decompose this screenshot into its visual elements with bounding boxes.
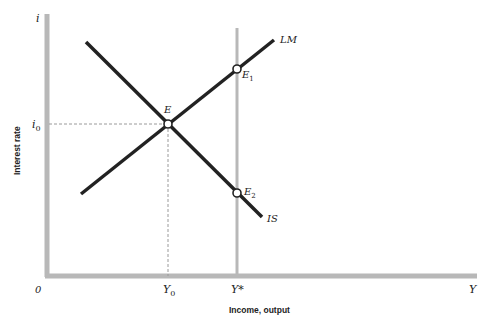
point-e1 [233,65,241,73]
i0-label: i0 [32,118,41,133]
x-axis-symbol: Y [469,283,478,296]
x-axis-title: Income, output [229,305,290,315]
point-e2 [233,189,241,197]
origin-label: 0 [35,284,42,295]
y-axis-title: Interest rate [12,126,22,175]
e1-label: E1 [241,69,254,83]
ystar-label: Y* [231,283,244,296]
e-label: E [163,104,172,115]
point-e [164,120,172,128]
is-lm-diagram: i i0 0 Y0 Y* Y Income, output Interest r… [0,0,488,327]
is-label: IS [266,213,278,224]
lm-curve [81,40,274,194]
lm-label: LM [279,34,298,45]
y0-label: Y0 [163,283,175,298]
y-axis-symbol: i [36,12,40,25]
